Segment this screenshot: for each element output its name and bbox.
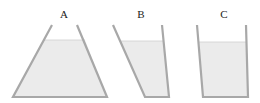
containers-diagram: A B C bbox=[0, 0, 260, 103]
liquid-c bbox=[199, 42, 248, 97]
container-b: B bbox=[113, 8, 169, 97]
container-a: A bbox=[13, 8, 107, 97]
label-b: B bbox=[137, 8, 144, 20]
label-c: C bbox=[220, 8, 227, 20]
liquid-b bbox=[120, 41, 169, 97]
label-a: A bbox=[60, 8, 68, 20]
liquid-a bbox=[13, 40, 107, 97]
container-c: C bbox=[197, 8, 248, 97]
